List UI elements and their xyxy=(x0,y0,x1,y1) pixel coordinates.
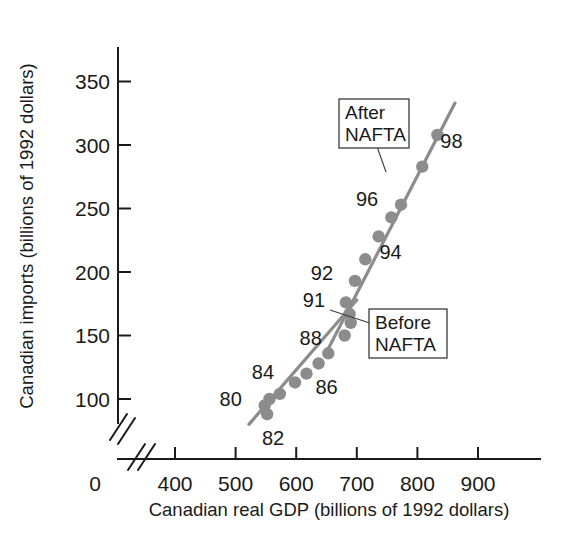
data-point-label-86: 86 xyxy=(315,376,337,398)
trend-lines xyxy=(249,103,455,424)
data-point-label-94: 94 xyxy=(379,241,401,263)
x-axis-ticks xyxy=(175,447,478,459)
data-point-88 xyxy=(338,329,350,341)
y-tick-label-100: 100 xyxy=(75,388,110,411)
x-tick-label-800: 800 xyxy=(400,472,435,495)
x-tick-label-0: 0 xyxy=(89,472,101,495)
y-tick-label-300: 300 xyxy=(75,134,110,157)
x-tick-label-900: 900 xyxy=(460,472,495,495)
callout-text-after-nafta-line2: NAFTA xyxy=(345,124,406,145)
data-point-labels: 80828486889192949698 xyxy=(220,130,463,449)
data-point-label-88: 88 xyxy=(300,327,322,349)
x-axis-tick-labels: 0400500600700800900 xyxy=(89,472,495,495)
y-axis-ticks xyxy=(118,82,131,400)
data-point-83 xyxy=(274,388,286,400)
data-point-96 xyxy=(395,198,407,210)
data-point-label-84: 84 xyxy=(252,361,274,383)
y-tick-label-350: 350 xyxy=(75,70,110,93)
x-tick-label-500: 500 xyxy=(218,472,253,495)
data-point-93 xyxy=(359,253,371,265)
y-axis-break-mark xyxy=(110,414,135,444)
y-axis-tick-labels: 100150200250300350 xyxy=(75,70,110,411)
data-point-84 xyxy=(289,376,301,388)
y-axis-title: Canadian imports (billions of 1992 dolla… xyxy=(16,63,37,409)
scatter-plot: 100150200250300350 0400500600700800900 8… xyxy=(0,0,568,541)
data-points xyxy=(258,129,443,421)
data-point-85 xyxy=(300,367,312,379)
data-point-label-92: 92 xyxy=(311,262,333,284)
data-point-label-91: 91 xyxy=(303,289,325,311)
data-point-label-80: 80 xyxy=(220,388,242,410)
callout-after-nafta: AfterNAFTA xyxy=(339,99,409,172)
y-tick-label-150: 150 xyxy=(75,324,110,347)
data-point-87 xyxy=(322,347,334,359)
y-tick-label-250: 250 xyxy=(75,197,110,220)
data-point-95 xyxy=(385,211,397,223)
callout-text-before-nafta-line1: Before xyxy=(375,312,431,333)
data-point-label-96: 96 xyxy=(356,188,378,210)
chart-figure: 100150200250300350 0400500600700800900 8… xyxy=(0,0,568,541)
data-point-97 xyxy=(416,160,428,172)
callout-text-after-nafta-line1: After xyxy=(345,102,386,123)
data-point-82 xyxy=(261,408,273,420)
y-tick-label-200: 200 xyxy=(75,261,110,284)
callout-leader-after-nafta xyxy=(378,148,387,172)
data-point-86 xyxy=(312,357,324,369)
callout-text-before-nafta-line2: NAFTA xyxy=(375,334,436,355)
data-point-92 xyxy=(349,275,361,287)
x-axis-break-mark xyxy=(128,444,155,470)
x-tick-label-700: 700 xyxy=(339,472,374,495)
x-axis-title: Canadian real GDP (billions of 1992 doll… xyxy=(149,499,510,520)
data-point-label-98: 98 xyxy=(440,130,462,152)
x-tick-label-600: 600 xyxy=(279,472,314,495)
data-point-label-82: 82 xyxy=(262,427,284,449)
data-point-91 xyxy=(340,296,352,308)
x-tick-label-400: 400 xyxy=(157,472,192,495)
